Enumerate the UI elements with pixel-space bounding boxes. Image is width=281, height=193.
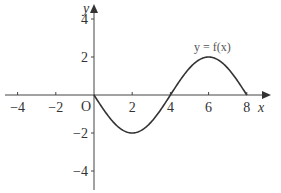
curve-label: y = f(x) [194,40,231,54]
y-axis-arrow-icon [90,4,98,13]
x-tick-label: −4 [10,100,25,115]
x-tick-label: 4 [167,100,174,115]
x-tick-label: 8 [243,100,250,115]
y-tick-label: 2 [81,50,88,65]
y-tick-label: −2 [73,126,88,141]
function-graph: −4−2246842−2−4 x y O y = f(x) [0,0,281,193]
x-tick-label: 2 [129,100,136,115]
x-tick-label: −2 [48,100,63,115]
y-axis-label: y [81,1,90,16]
x-tick-label: 6 [205,100,212,115]
x-axis-label: x [257,100,265,115]
axes [5,4,271,190]
y-tick-label: −4 [73,164,88,179]
x-axis-arrow-icon [262,91,271,99]
origin-label: O [81,99,91,114]
